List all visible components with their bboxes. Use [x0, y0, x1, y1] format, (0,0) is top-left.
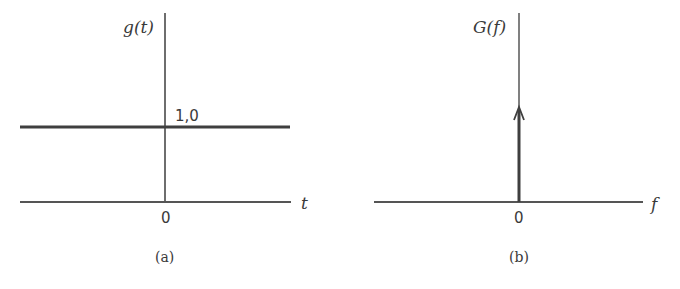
- figure-canvas: g(t) 1,0 0 t (a) G(f) 0 f (b): [0, 0, 680, 289]
- panel-a: g(t) 1,0 0 t (a): [20, 13, 308, 265]
- panel-a-level-label: 1,0: [175, 107, 199, 125]
- panel-b: G(f) 0 f (b): [374, 13, 660, 265]
- panel-a-origin-label: 0: [161, 209, 171, 227]
- panel-b-y-label: G(f): [473, 17, 506, 37]
- panel-b-x-label: f: [649, 194, 660, 214]
- panel-b-caption: (b): [509, 249, 529, 265]
- panel-a-x-label: t: [301, 193, 308, 213]
- panel-a-caption: (a): [155, 249, 174, 265]
- panel-a-y-label: g(t): [123, 17, 154, 37]
- panel-b-origin-label: 0: [514, 209, 524, 227]
